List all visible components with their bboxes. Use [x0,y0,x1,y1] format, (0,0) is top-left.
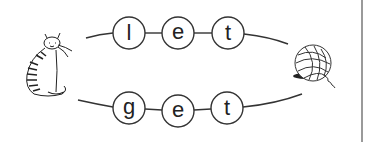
top-letter-3: t [213,18,243,48]
bottom-letter-1: g [114,92,144,122]
top-letter-1: l [114,18,144,48]
top-letter-2: e [163,17,193,47]
right-border-line [361,0,363,142]
word-path-worksheet: l e t g e t [0,0,365,142]
bottom-letter-3: t [212,93,242,123]
yarn-ball-icon [293,45,335,88]
cat-icon [27,33,72,96]
bottom-letter-2: e [163,95,193,125]
